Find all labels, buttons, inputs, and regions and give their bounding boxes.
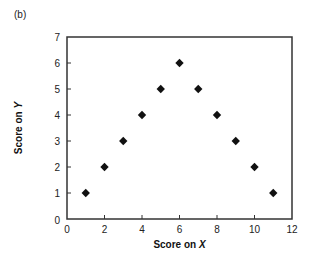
data-point-diamond xyxy=(157,85,165,93)
y-tick-label: 4 xyxy=(54,110,60,121)
y-tick-label: 5 xyxy=(54,84,60,95)
y-tick-label: 0 xyxy=(54,215,60,226)
data-point-diamond xyxy=(119,137,127,145)
y-axis-ticks: 01234567 xyxy=(54,32,71,227)
x-tick-label: 8 xyxy=(214,224,220,235)
y-tick-label: 2 xyxy=(54,162,60,173)
x-tick-label: 10 xyxy=(249,224,261,235)
data-point-diamond xyxy=(194,85,202,93)
x-axis-title: Score on X xyxy=(153,239,207,250)
x-tick-label: 6 xyxy=(177,224,183,235)
x-tick-label: 4 xyxy=(139,224,145,235)
data-point-diamond xyxy=(232,137,240,145)
data-points xyxy=(82,59,278,197)
x-axis-ticks: 024681012 xyxy=(64,215,298,235)
y-tick-label: 6 xyxy=(54,58,60,69)
y-tick-label: 7 xyxy=(54,32,60,43)
x-tick-label: 12 xyxy=(286,224,298,235)
data-point-diamond xyxy=(138,111,146,119)
data-point-diamond xyxy=(100,163,108,171)
data-point-diamond xyxy=(269,189,277,197)
x-tick-label: 2 xyxy=(102,224,108,235)
data-point-diamond xyxy=(82,189,90,197)
y-tick-label: 1 xyxy=(54,188,60,199)
x-tick-label: 0 xyxy=(64,224,70,235)
data-point-diamond xyxy=(250,163,258,171)
data-point-diamond xyxy=(175,59,183,67)
y-tick-label: 3 xyxy=(54,136,60,147)
data-point-diamond xyxy=(213,111,221,119)
y-axis-title: Score on Y xyxy=(13,101,24,155)
scatter-chart: 01234567 024681012 Score on X Score on Y xyxy=(0,0,313,258)
